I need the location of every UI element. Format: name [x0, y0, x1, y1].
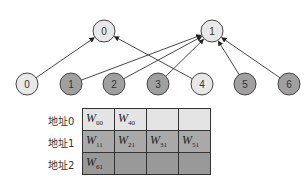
table-cell: W40 — [115, 109, 147, 131]
edge-arrow — [36, 38, 94, 78]
table-cell — [115, 153, 147, 175]
row-label-2: 地址2 — [48, 157, 74, 172]
edge-arrow — [166, 39, 204, 76]
edge-arrow — [124, 37, 202, 79]
table-row: W00 W40 — [83, 109, 211, 131]
bottom-node-1: 1 — [60, 73, 82, 95]
row-label-1: 地址1 — [48, 135, 74, 150]
table-cell: W00 — [83, 109, 115, 131]
table-cell: W21 — [115, 131, 147, 153]
top-node-0: 0 — [93, 20, 115, 42]
weight-table: W00 W40 W11 W21 W31 W51 W61 — [82, 108, 211, 175]
table-cell: W11 — [83, 131, 115, 153]
edge-arrow — [218, 41, 239, 74]
bottom-node-2: 2 — [103, 73, 125, 95]
node-label: 4 — [199, 79, 205, 90]
node-label: 2 — [111, 79, 117, 90]
nodes: 010123456 — [16, 20, 300, 95]
row-label-0: 地址0 — [48, 113, 74, 128]
bottom-node-3: 3 — [147, 73, 169, 95]
bottom-node-6: 6 — [278, 73, 300, 95]
node-label: 0 — [101, 26, 107, 37]
node-label: 3 — [155, 79, 161, 90]
table-cell — [147, 109, 179, 131]
table-cell: W31 — [147, 131, 179, 153]
table-cell — [179, 153, 211, 175]
table-row: W61 — [83, 153, 211, 175]
node-label: 1 — [68, 79, 74, 90]
edge-arrow — [222, 38, 280, 78]
node-label: 0 — [24, 79, 30, 90]
node-label: 1 — [209, 26, 215, 37]
table-cell: W51 — [179, 131, 211, 153]
table-cell: W61 — [83, 153, 115, 175]
bottom-node-4: 4 — [191, 73, 213, 95]
bottom-node-5: 5 — [234, 73, 256, 95]
node-label: 6 — [286, 79, 292, 90]
top-node-1: 1 — [201, 20, 223, 42]
graph-diagram: 010123456 — [0, 0, 308, 105]
node-label: 5 — [242, 79, 248, 90]
table-cell — [147, 153, 179, 175]
table-row: W11 W21 W31 W51 — [83, 131, 211, 153]
table-cell — [179, 109, 211, 131]
bottom-node-0: 0 — [16, 73, 38, 95]
